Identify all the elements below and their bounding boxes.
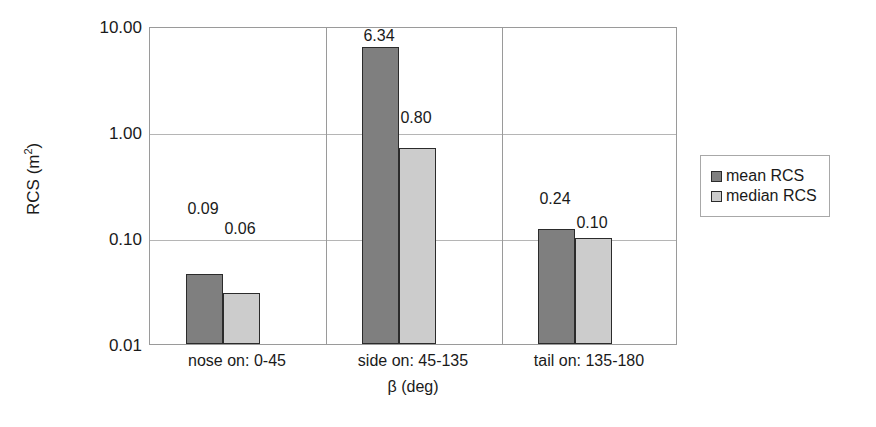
y-axis-title-superscript: 2 (22, 148, 34, 154)
y-axis-title-base: RCS (m (24, 155, 43, 215)
gridline-x-2 (502, 28, 503, 344)
bar-median-nose-on (223, 293, 260, 344)
legend-swatch-median-icon (711, 191, 722, 202)
bar-value-median-tail-on: 0.10 (576, 215, 607, 231)
bar-value-mean-side-on: 6.34 (363, 28, 394, 44)
x-category-label-tail-on: tail on: 135-180 (534, 352, 644, 370)
bar-mean-tail-on (538, 229, 575, 344)
x-category-label-side-on: side on: 45-135 (358, 352, 468, 370)
bar-value-mean-nose-on: 0.09 (187, 201, 218, 217)
y-axis-title: RCS (m2) (22, 119, 44, 239)
gridline-x-1 (326, 28, 327, 344)
bar-value-median-nose-on: 0.06 (224, 221, 255, 237)
y-tick-label-1: 1.00 (72, 125, 142, 142)
plot-area (149, 27, 677, 345)
bar-mean-side-on (362, 47, 399, 344)
legend-item-median-rcs: median RCS (711, 188, 817, 204)
legend-label-mean-rcs: mean RCS (726, 168, 804, 184)
legend-item-mean-rcs: mean RCS (711, 168, 817, 184)
y-tick-label-0_10: 0.10 (72, 231, 142, 248)
y-tick-label-0_01: 0.01 (72, 337, 142, 354)
bar-value-median-side-on: 0.80 (400, 110, 431, 126)
rcs-bar-chart: RCS (m2) 10.00 1.00 0.10 0.01 0.09 0.06 … (0, 0, 876, 427)
y-axis-ticks: 10.00 1.00 0.10 0.01 (68, 0, 142, 427)
bar-median-tail-on (575, 238, 612, 344)
legend-label-median-rcs: median RCS (726, 188, 817, 204)
gridline-y-1 (150, 134, 676, 135)
bar-median-side-on (399, 148, 436, 344)
chart-legend: mean RCS median RCS (700, 155, 830, 217)
y-axis-title-tail: ) (24, 143, 43, 149)
bar-mean-nose-on (186, 274, 223, 344)
x-category-label-nose-on: nose on: 0-45 (188, 352, 286, 370)
x-axis-title: β (deg) (388, 378, 439, 396)
legend-swatch-mean-icon (711, 171, 722, 182)
bar-value-mean-tail-on: 0.24 (539, 191, 570, 207)
y-tick-label-10: 10.00 (72, 19, 142, 36)
